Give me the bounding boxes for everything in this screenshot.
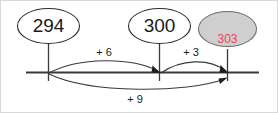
jump-arc-3 bbox=[161, 62, 226, 73]
jump-arrowhead-9 bbox=[219, 78, 228, 85]
node-label-294: 294 bbox=[33, 15, 65, 36]
number-line-diagram: 294 300 303 + 6 + 3 + 9 bbox=[1, 1, 278, 113]
jump-label-9: + 9 bbox=[127, 93, 143, 105]
jump-label-3: + 3 bbox=[183, 46, 199, 58]
jump-label-6: + 6 bbox=[96, 46, 112, 58]
jump-arc-6 bbox=[49, 61, 158, 73]
diagram-canvas: 294 300 303 + 6 + 3 + 9 bbox=[0, 0, 278, 113]
node-label-300: 300 bbox=[144, 15, 176, 36]
node-label-303: 303 bbox=[217, 32, 237, 46]
jump-arc-9 bbox=[49, 74, 225, 89]
